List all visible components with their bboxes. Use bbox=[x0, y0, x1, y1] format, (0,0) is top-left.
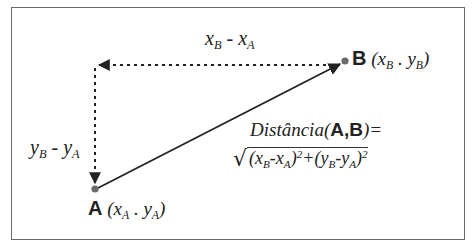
dy-label: yB - yA bbox=[30, 136, 80, 162]
distance-formula-rhs: √(xB-xA)2+(yB-yA)2 bbox=[233, 146, 368, 171]
distance-formula-lhs: Distância(A,B)= bbox=[250, 119, 382, 141]
point-b-name: B bbox=[352, 47, 366, 69]
square-root-icon: √ bbox=[233, 146, 247, 171]
point-b-label: B (xB . yB) bbox=[352, 47, 429, 73]
radicand: (xB-xA)2+(yB-yA)2 bbox=[247, 147, 368, 168]
dx-label: xB - xA bbox=[205, 27, 255, 53]
point-a-name: A bbox=[88, 197, 102, 219]
point-a-label: A (xA . yA) bbox=[88, 197, 165, 223]
